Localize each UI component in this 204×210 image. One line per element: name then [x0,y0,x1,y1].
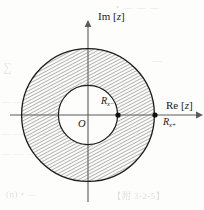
outer-radius-dot [152,112,157,117]
inner-radius-dot [115,112,120,117]
inner-radius-label: Rx− [101,96,114,106]
inner-radius-label-subscript: x− [107,100,114,107]
roc-figure: • — — — ∑ — — — — — — — — — — — — — (n) … [0,0,204,210]
real-axis-label-prefix: Re [ [166,99,185,111]
imaginary-axis-label: Im [z] [98,11,125,22]
imaginary-axis-label-prefix: Im [ [98,10,117,22]
real-axis-label: Re [z] [166,100,193,111]
real-axis-label-suffix: ] [189,99,193,111]
origin-label: O [78,119,86,130]
outer-radius-label-subscript: x+ [169,121,176,128]
imaginary-axis-label-suffix: ] [121,10,125,22]
outer-radius-label: Rx+ [163,117,176,127]
